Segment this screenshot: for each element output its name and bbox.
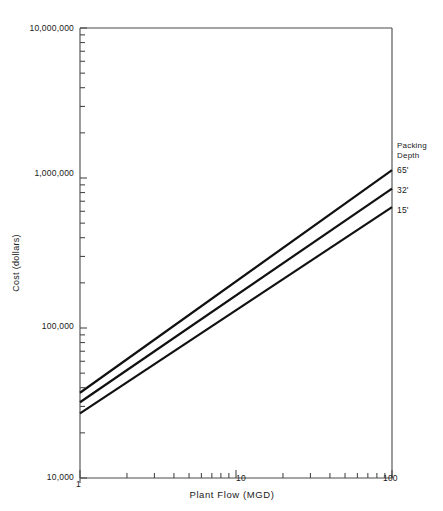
x-axis-label-1: 1 xyxy=(76,479,81,489)
log-log-line-plot xyxy=(0,0,443,511)
legend-title: Packing Depth xyxy=(397,141,427,161)
x-axis-label-10: 10 xyxy=(236,473,246,483)
legend-item-65: 65' xyxy=(397,165,409,175)
series-line-65 xyxy=(80,170,392,393)
x-axis-title: Plant Flow (MGD) xyxy=(152,489,312,500)
y-axis-label-1000000: 1,000,000 xyxy=(2,168,74,178)
y-axis-title: Cost (dollars) xyxy=(11,213,21,313)
y-axis-label-10000000: 10,000,000 xyxy=(2,23,74,33)
series-line-32 xyxy=(80,189,392,403)
y-axis-label-10000: 10,000 xyxy=(2,472,74,482)
legend-title-line-2: Depth xyxy=(397,151,427,161)
data-series-group xyxy=(80,170,392,413)
legend-item-32: 32' xyxy=(397,185,409,195)
x-axis-label-100: 100 xyxy=(383,473,398,483)
legend-title-line-1: Packing xyxy=(397,141,427,151)
plot-frame xyxy=(80,28,392,478)
chart-figure: 10,000,000 1,000,000 100,000 10,000 1 10… xyxy=(0,0,443,511)
y-axis-label-100000: 100,000 xyxy=(2,321,74,331)
series-line-15 xyxy=(80,207,392,413)
legend-item-15: 15' xyxy=(397,205,409,215)
